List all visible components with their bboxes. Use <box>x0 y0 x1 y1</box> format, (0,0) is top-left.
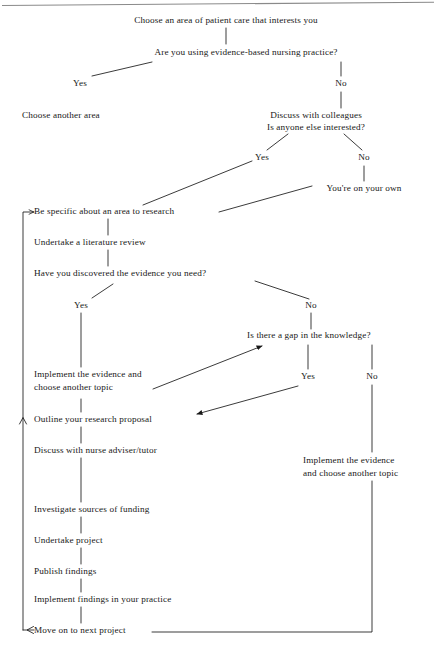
node-undertake-project: Undertake project <box>34 535 103 547</box>
flowchart-page: Choose an area of patient care that inte… <box>0 0 436 651</box>
label-no-interested: No <box>358 152 370 164</box>
node-anyone-interested-question: Is anyone else interested? <box>267 122 365 134</box>
label-yes-evidence: Yes <box>73 78 87 90</box>
node-implement-findings: Implement findings in your practice <box>34 594 171 606</box>
flowchart-connectors <box>0 0 436 651</box>
node-discuss-colleagues: Discuss with colleagues <box>270 110 362 122</box>
page-top-rule <box>2 2 434 5</box>
edge-implement-left-to-gap <box>153 346 262 389</box>
edge-gap-yes-to-outline <box>197 386 298 414</box>
edge-discovered-no <box>255 281 309 299</box>
node-publish-findings: Publish findings <box>34 566 96 578</box>
node-on-your-own: You're on your own <box>326 183 401 195</box>
node-discovered-evidence-question: Have you discovered the evidence you nee… <box>34 268 206 280</box>
label-no-discovered: No <box>305 300 317 312</box>
edge-own-to-be-specific <box>219 186 312 212</box>
label-yes-gap: Yes <box>301 371 315 383</box>
edge-yes-to-be-specific <box>143 161 252 205</box>
node-discuss-adviser: Discuss with nurse adviser/tutor <box>34 445 157 457</box>
node-move-on: Move on to next project <box>34 625 126 637</box>
node-implement-left-line2: choose another topic <box>34 382 113 394</box>
edge-interested-no <box>344 134 362 150</box>
edge-discovered-yes <box>92 284 113 298</box>
node-implement-right-line1: Implement the evidence <box>303 455 395 467</box>
node-evidence-based-question: Are you using evidence-based nursing pra… <box>154 47 337 59</box>
node-outline-proposal: Outline your research proposal <box>34 414 152 426</box>
edge-interested-yes <box>267 134 288 150</box>
node-gap-knowledge-question: Is there a gap in the knowledge? <box>247 330 371 342</box>
node-choose-another-area: Choose another area <box>22 110 100 122</box>
label-yes-discovered: Yes <box>74 300 88 312</box>
node-literature-review: Undertake a literature review <box>34 237 146 249</box>
node-choose-area: Choose an area of patient care that inte… <box>134 15 317 27</box>
node-implement-left-line1: Implement the evidence and <box>34 369 142 381</box>
label-yes-interested: Yes <box>255 152 269 164</box>
label-no-gap: No <box>366 371 378 383</box>
label-no-evidence: No <box>335 78 347 90</box>
edge-evidence-yes <box>92 62 152 76</box>
node-implement-right-line2: and choose another topic <box>303 468 398 480</box>
edge-implement-right-to-moveon <box>152 481 372 632</box>
node-be-specific: Be specific about an area to research <box>34 206 174 218</box>
node-investigate-funding: Investigate sources of funding <box>34 504 150 516</box>
